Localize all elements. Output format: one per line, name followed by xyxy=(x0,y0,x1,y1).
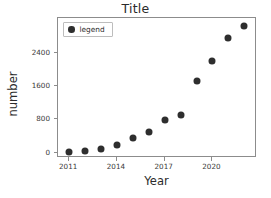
data-point xyxy=(209,57,216,64)
legend-box: legend xyxy=(63,22,113,37)
y-tick-label: 0 xyxy=(0,147,50,156)
x-axis-title: Year xyxy=(57,174,256,188)
data-point xyxy=(66,149,73,156)
x-tick-label: 2014 xyxy=(107,162,125,171)
chart-title: Title xyxy=(0,1,271,16)
y-tick-mark xyxy=(54,118,58,119)
y-tick-mark xyxy=(54,152,58,153)
data-point xyxy=(97,145,104,152)
data-point xyxy=(225,35,232,42)
data-point xyxy=(145,128,152,135)
plot-area xyxy=(57,17,256,157)
legend-marker-icon xyxy=(68,26,75,33)
x-tick-label: 2020 xyxy=(202,162,220,171)
data-point xyxy=(129,135,136,142)
scatter-chart-figure: Title 2011201420172020 080016002400 Year… xyxy=(0,0,271,198)
data-point xyxy=(193,77,200,84)
data-point xyxy=(177,112,184,119)
x-tick-mark xyxy=(116,157,117,161)
x-tick-mark xyxy=(164,157,165,161)
x-tick-label: 2011 xyxy=(59,162,77,171)
data-point xyxy=(161,117,168,124)
data-points-layer xyxy=(58,18,255,156)
y-tick-mark xyxy=(54,52,58,53)
x-tick-mark xyxy=(211,157,212,161)
y-tick-mark xyxy=(54,85,58,86)
legend-entry-label: legend xyxy=(80,25,105,34)
data-point xyxy=(241,22,248,29)
x-tick-mark xyxy=(68,157,69,161)
x-tick-label: 2017 xyxy=(155,162,173,171)
y-axis-title: number xyxy=(6,49,20,139)
data-point xyxy=(82,147,89,154)
data-point xyxy=(113,141,120,148)
